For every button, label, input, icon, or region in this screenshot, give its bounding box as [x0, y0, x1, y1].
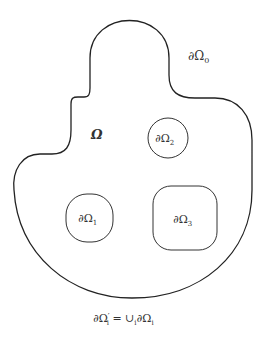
- caption-equation: ∂Ω′i = ∪i∂Ωi: [93, 311, 154, 327]
- hole-3-label: ∂Ω3: [173, 213, 192, 228]
- outer-boundary: [14, 21, 252, 299]
- domain-diagram: ∂Ω0 Ω ∂Ω2 ∂Ω1 ∂Ω3 ∂Ω′i = ∪i∂Ωi: [0, 0, 265, 338]
- domain-label: Ω: [90, 127, 103, 142]
- hole-2-label: ∂Ω2: [155, 132, 174, 147]
- outer-boundary-label: ∂Ω0: [188, 49, 209, 65]
- hole-1-label: ∂Ω1: [78, 212, 97, 227]
